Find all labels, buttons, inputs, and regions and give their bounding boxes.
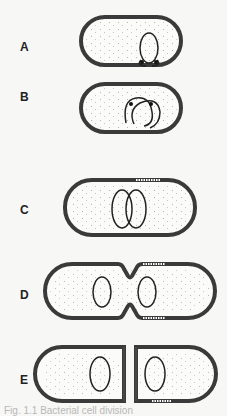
fission-diagram (0, 0, 227, 416)
figure-caption: Fig. 1.1 Bacterial cell division (4, 405, 133, 416)
cell-stage-b (81, 84, 181, 132)
cell-stage-e-right (136, 347, 216, 401)
cell-stage-e-left (35, 347, 124, 401)
cell-stage-d (45, 264, 215, 318)
cell-stage-a (81, 17, 181, 66)
cell-stage-c (65, 180, 195, 235)
